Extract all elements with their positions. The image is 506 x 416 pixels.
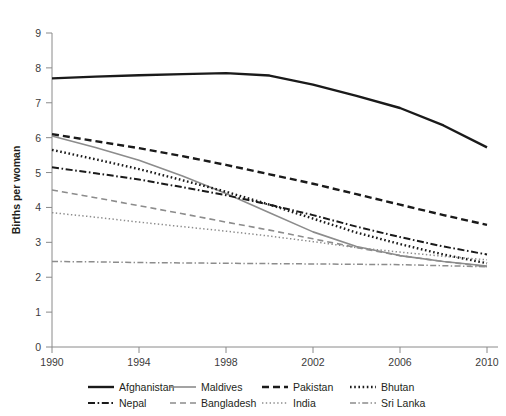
series-line-bhutan <box>52 150 487 263</box>
y-tick-label: 3 <box>35 236 41 248</box>
legend-label-sri-lanka: Sri Lanka <box>381 397 426 409</box>
x-tick-label: 2006 <box>388 356 412 368</box>
chart-svg: 0123456789 199019941998200220062010 Birt… <box>0 0 506 416</box>
chart-legend: AfghanistanMaldivesPakistanBhutanNepalBa… <box>88 381 426 409</box>
series-line-sri-lanka <box>52 262 487 267</box>
y-axis-title: Births per woman <box>10 146 22 235</box>
series-line-bangladesh <box>52 190 487 267</box>
y-tick-label: 5 <box>35 167 41 179</box>
y-tick-label: 0 <box>35 341 41 353</box>
legend-label-nepal: Nepal <box>119 397 146 409</box>
x-tick-label: 1998 <box>214 356 238 368</box>
y-tick-label: 2 <box>35 271 41 283</box>
y-axis: 0123456789 <box>35 27 52 353</box>
legend-label-pakistan: Pakistan <box>293 381 333 393</box>
legend-label-maldives: Maldives <box>201 381 242 393</box>
series-group <box>52 73 487 267</box>
series-line-india <box>52 213 487 260</box>
y-tick-label: 1 <box>35 306 41 318</box>
x-tick-label: 2002 <box>301 356 325 368</box>
legend-label-bhutan: Bhutan <box>381 381 414 393</box>
x-tick-label: 1994 <box>127 356 151 368</box>
legend-label-india: India <box>293 397 316 409</box>
series-line-maldives <box>52 136 487 266</box>
x-axis: 199019941998200220062010 <box>40 347 499 368</box>
legend-label-afghanistan: Afghanistan <box>119 381 175 393</box>
fertility-line-chart: 0123456789 199019941998200220062010 Birt… <box>0 0 506 416</box>
y-tick-label: 9 <box>35 27 41 39</box>
legend-label-bangladesh: Bangladesh <box>201 397 257 409</box>
y-tick-group: 0123456789 <box>35 27 52 353</box>
x-tick-label: 2010 <box>475 356 499 368</box>
y-tick-label: 6 <box>35 132 41 144</box>
series-line-pakistan <box>52 134 487 225</box>
y-tick-label: 8 <box>35 62 41 74</box>
y-tick-label: 7 <box>35 97 41 109</box>
series-line-afghanistan <box>52 73 487 147</box>
y-tick-label: 4 <box>35 201 41 213</box>
x-tick-group: 199019941998200220062010 <box>40 347 499 368</box>
x-tick-label: 1990 <box>40 356 64 368</box>
